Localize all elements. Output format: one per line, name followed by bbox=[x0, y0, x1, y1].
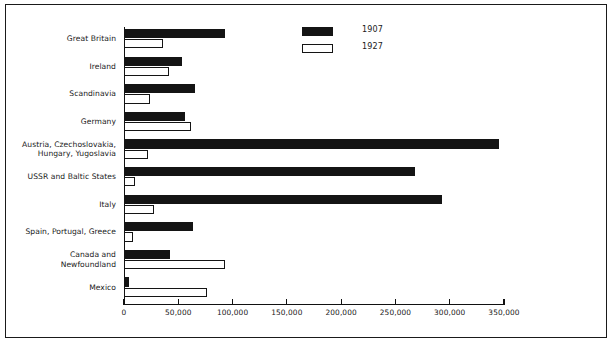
x-tick-label: 250,000 bbox=[380, 308, 411, 317]
category-label: Ireland bbox=[89, 62, 116, 71]
legend-label: 1927 bbox=[362, 42, 383, 51]
bar-1927 bbox=[124, 122, 191, 131]
bar-1907 bbox=[124, 29, 225, 38]
x-tick-mark bbox=[123, 299, 124, 305]
category-label: Scandinavia bbox=[69, 89, 116, 98]
x-tick-label: 300,000 bbox=[434, 308, 465, 317]
bar-1907 bbox=[124, 250, 170, 259]
bar-1907 bbox=[124, 277, 129, 286]
bar-1907 bbox=[124, 57, 182, 66]
bar-1927 bbox=[124, 205, 154, 214]
category-label: Germany bbox=[81, 117, 116, 126]
bar-1927 bbox=[124, 232, 133, 241]
bar-1927 bbox=[124, 288, 207, 297]
x-tick-mark bbox=[503, 299, 504, 305]
x-tick-label: 350,000 bbox=[488, 308, 519, 317]
x-tick-label: 50,000 bbox=[165, 308, 191, 317]
category-label: USSR and Baltic States bbox=[28, 172, 116, 181]
bar-1907 bbox=[124, 112, 185, 121]
bar-1907 bbox=[124, 167, 415, 176]
category-label: Austria, Czechoslovakia,Hungary, Yugosla… bbox=[22, 140, 116, 158]
bar-1907 bbox=[124, 222, 193, 231]
bar-1927 bbox=[124, 260, 225, 269]
x-tick-label: 100,000 bbox=[217, 308, 248, 317]
bar-1927 bbox=[124, 177, 135, 186]
bar-1927 bbox=[124, 39, 163, 48]
x-tick-mark bbox=[178, 299, 179, 305]
category-label: Spain, Portugal, Greece bbox=[25, 227, 116, 236]
x-tick-mark bbox=[286, 299, 287, 305]
x-tick-label: 0 bbox=[122, 308, 127, 317]
legend-swatch-1907 bbox=[302, 27, 333, 36]
plot-area: 050,000100,000150,000200,000250,000300,0… bbox=[0, 0, 614, 345]
chart-page: 050,000100,000150,000200,000250,000300,0… bbox=[0, 0, 614, 345]
x-tick-mark bbox=[449, 299, 450, 305]
category-label: Italy bbox=[99, 200, 116, 209]
bar-1907 bbox=[124, 84, 195, 93]
category-label: Canada andNewfoundland bbox=[61, 250, 116, 268]
legend-swatch-1927 bbox=[302, 44, 333, 53]
bar-1927 bbox=[124, 67, 169, 76]
x-tick-mark bbox=[395, 299, 396, 305]
x-tick-mark bbox=[232, 299, 233, 305]
x-tick-label: 150,000 bbox=[271, 308, 302, 317]
category-label: Mexico bbox=[89, 283, 116, 292]
x-tick-mark bbox=[341, 299, 342, 305]
bar-1927 bbox=[124, 150, 148, 159]
bar-1927 bbox=[124, 94, 150, 103]
category-label: Great Britain bbox=[67, 34, 116, 43]
legend-label: 1907 bbox=[362, 25, 383, 34]
x-tick-label: 200,000 bbox=[326, 308, 357, 317]
x-axis-line bbox=[124, 304, 505, 305]
bar-1907 bbox=[124, 139, 499, 148]
bar-1907 bbox=[124, 195, 442, 204]
